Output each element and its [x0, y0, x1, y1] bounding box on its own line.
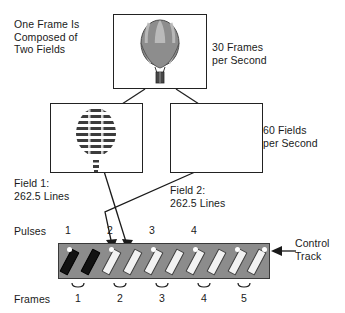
- frames-label: Frames: [14, 293, 50, 306]
- pulse-dot-5: [235, 247, 240, 252]
- frame-brace-5: [238, 283, 250, 287]
- pulse-dot-6: [262, 247, 267, 252]
- frame-number-4: 4: [196, 292, 212, 304]
- frame-number-1: 1: [70, 292, 86, 304]
- tape-bar-10: [246, 248, 266, 275]
- video-frame-field-diagram: One Frame Is Composed of Two Fields: [0, 0, 345, 313]
- pulse-number-1: 1: [60, 224, 76, 236]
- field2-box: [170, 103, 263, 173]
- one-frame-composed-label: One Frame Is Composed of Two Fields: [14, 18, 79, 56]
- control-track-arrow-icon: [271, 246, 296, 256]
- pulse-number-2: 2: [102, 224, 118, 236]
- control-track-label: Control Track: [295, 237, 330, 262]
- tape-bar-1: [59, 248, 79, 275]
- tape-bar-2: [80, 248, 100, 275]
- field1-arrow-icon: [103, 168, 133, 250]
- field2-label: Field 2: 262.5 Lines: [170, 184, 225, 209]
- tape-bar-7: [185, 248, 205, 275]
- pulse-dot-3: [151, 247, 156, 252]
- pulse-dot-1: [67, 247, 72, 252]
- tape-bar-6: [164, 248, 184, 275]
- tape-bar-5: [143, 248, 163, 275]
- pulse-number-4: 4: [186, 224, 202, 236]
- frame-number-3: 3: [154, 292, 170, 304]
- connector-frame-to-field2: [176, 89, 199, 104]
- pulses-label: Pulses: [14, 225, 46, 238]
- field1-label: Field 1: 262.5 Lines: [14, 177, 69, 202]
- frame-number-5: 5: [236, 292, 252, 304]
- field1-box: [50, 103, 143, 173]
- pulse-dot-4: [193, 247, 198, 252]
- frame-brace-2: [114, 283, 126, 287]
- tape-bar-4: [122, 248, 142, 275]
- tape-bar-9: [227, 248, 247, 275]
- connector-frame-to-field1: [122, 89, 145, 104]
- tape-bar-3: [101, 248, 121, 275]
- sixty-fields-label: 60 Fields per Second: [263, 124, 318, 149]
- control-track-tape: [58, 243, 270, 279]
- frame-brace-3: [156, 283, 168, 287]
- frame-number-2: 2: [112, 292, 128, 304]
- tape-bar-8: [206, 248, 226, 275]
- pulse-number-3: 3: [144, 224, 160, 236]
- frame-box: [113, 14, 207, 89]
- frame-brace-1: [72, 283, 84, 287]
- pulse-dot-2: [109, 247, 114, 252]
- thirty-frames-label: 30 Frames per Second: [212, 41, 267, 66]
- frame-brace-4: [198, 283, 210, 287]
